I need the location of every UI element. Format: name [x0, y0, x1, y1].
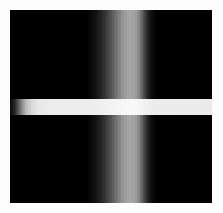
figure-root [0, 0, 223, 213]
horizontal-band [10, 99, 212, 115]
intensity-field [10, 10, 212, 203]
